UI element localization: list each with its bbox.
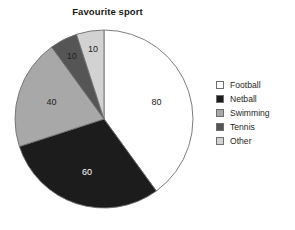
legend-label-football: Football: [230, 80, 261, 90]
legend-swatch-football: [216, 81, 224, 89]
legend-label-other: Other: [230, 136, 252, 146]
legend-item-tennis[interactable]: Tennis: [216, 120, 295, 134]
pie-data-label-tennis: 10: [67, 51, 77, 61]
pie-data-label-other: 10: [88, 44, 98, 54]
pie-chart-figure: Favourite sport 8060401010 Football Netb…: [0, 0, 295, 230]
legend-item-football[interactable]: Football: [216, 78, 295, 92]
legend-label-netball: Netball: [230, 94, 257, 104]
pie-data-label-netball: 60: [82, 167, 92, 177]
pie-plot-area: 8060401010: [0, 0, 215, 230]
legend-item-netball[interactable]: Netball: [216, 92, 295, 106]
pie-data-label-swimming: 40: [46, 97, 56, 107]
pie-data-label-football: 80: [151, 97, 161, 107]
pie-slices: [15, 30, 193, 208]
legend: Football Netball Swimming Tennis Other: [216, 78, 295, 148]
pie-svg: 8060401010: [0, 0, 215, 230]
legend-label-tennis: Tennis: [230, 122, 255, 132]
legend-swatch-netball: [216, 95, 224, 103]
legend-item-swimming[interactable]: Swimming: [216, 106, 295, 120]
legend-swatch-swimming: [216, 109, 224, 117]
legend-swatch-tennis: [216, 123, 224, 131]
legend-item-other[interactable]: Other: [216, 134, 295, 148]
legend-label-swimming: Swimming: [230, 108, 270, 118]
legend-swatch-other: [216, 137, 224, 145]
